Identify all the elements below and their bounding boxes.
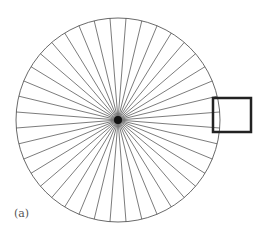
spoke-line bbox=[65, 120, 118, 207]
figure-label: (a) bbox=[14, 207, 29, 220]
spoke-line bbox=[31, 120, 118, 173]
spoke-line bbox=[52, 42, 118, 120]
spoke-line bbox=[31, 67, 118, 120]
spoke-line bbox=[118, 67, 205, 120]
spoke-line bbox=[118, 42, 184, 120]
spoke-line bbox=[118, 120, 171, 207]
spoke-line bbox=[52, 120, 118, 198]
spoke-line bbox=[40, 120, 118, 186]
center-hub bbox=[114, 116, 122, 124]
radial-spoke-diagram bbox=[0, 0, 266, 228]
spoke-line bbox=[118, 33, 171, 120]
spoke-line bbox=[65, 33, 118, 120]
spoke-line bbox=[118, 120, 205, 173]
spoke-line bbox=[40, 54, 118, 120]
spoke-line bbox=[118, 120, 196, 186]
spoke-line bbox=[118, 54, 196, 120]
spoke-line bbox=[118, 120, 184, 198]
